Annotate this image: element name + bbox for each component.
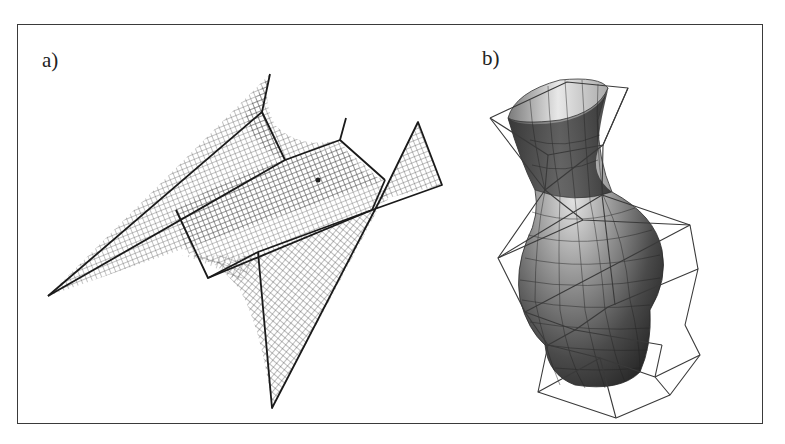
panel-a-surface xyxy=(48,74,442,408)
panel-a-center-point xyxy=(316,178,321,183)
figure-graphics xyxy=(0,0,785,444)
